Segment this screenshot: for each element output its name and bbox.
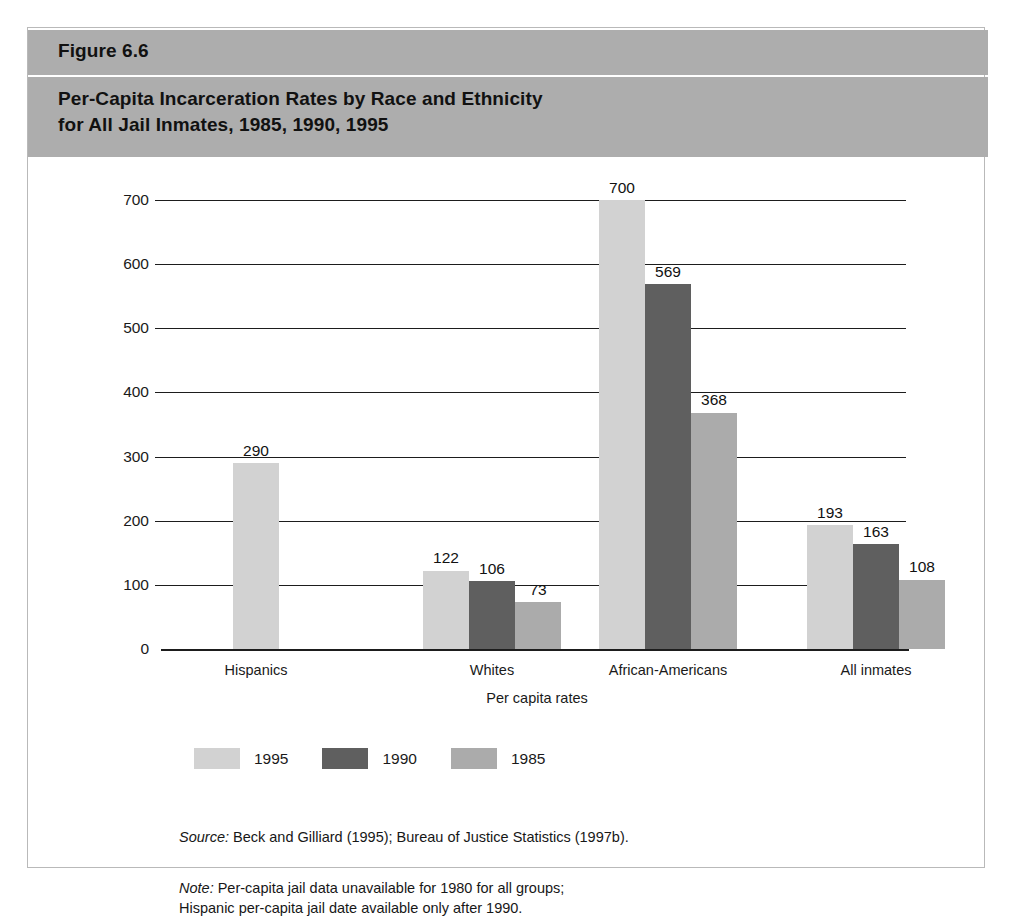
y-tick-label: 100 bbox=[123, 576, 149, 594]
y-tick-mark bbox=[155, 521, 169, 522]
y-tick-mark bbox=[155, 457, 169, 458]
note-label: Note: bbox=[179, 880, 214, 896]
legend-swatch-1985 bbox=[451, 748, 497, 769]
gridline bbox=[169, 328, 906, 329]
source-line: Source: Beck and Gilliard (1995); Bureau… bbox=[179, 807, 939, 847]
y-tick-label: 700 bbox=[123, 191, 149, 209]
legend-swatch-1995 bbox=[194, 748, 240, 769]
legend-label-1985: 1985 bbox=[511, 750, 545, 768]
y-tick-mark bbox=[155, 585, 169, 586]
source-text: Beck and Gilliard (1995); Bureau of Just… bbox=[229, 829, 629, 845]
bar-value-label: 108 bbox=[909, 559, 935, 575]
category-label-all-inmates: All inmates bbox=[841, 662, 912, 678]
category-label-hispanics: Hispanics bbox=[225, 662, 288, 678]
chart-legend: 199519901985 bbox=[194, 748, 579, 769]
bar-value-label: 122 bbox=[433, 550, 459, 566]
bar-whites-1985: 73 bbox=[515, 602, 561, 649]
note-text: Per-capita jail data unavailable for 198… bbox=[179, 880, 564, 916]
bar-african-americans-1995: 700 bbox=[599, 200, 645, 649]
bar-whites-1990: 106 bbox=[469, 581, 515, 649]
gridline bbox=[169, 264, 906, 265]
legend-item-1995: 1995 bbox=[194, 748, 288, 769]
footnotes-block: Source: Beck and Gilliard (1995); Bureau… bbox=[179, 807, 939, 916]
bar-hispanics-1995: 290 bbox=[233, 463, 279, 649]
bar-african-americans-1985: 368 bbox=[691, 413, 737, 649]
legend-label-1995: 1995 bbox=[254, 750, 288, 768]
gridline bbox=[169, 200, 906, 201]
bar-value-label: 106 bbox=[479, 561, 505, 577]
bar-value-label: 193 bbox=[817, 505, 843, 521]
y-tick-label: 600 bbox=[123, 255, 149, 273]
bar-value-label: 73 bbox=[529, 582, 546, 598]
y-tick-label: 300 bbox=[123, 448, 149, 466]
gridline bbox=[169, 521, 906, 522]
legend-label-1990: 1990 bbox=[382, 750, 416, 768]
legend-swatch-1990 bbox=[322, 748, 368, 769]
bar-all-inmates-1990: 163 bbox=[853, 544, 899, 649]
bar-value-label: 163 bbox=[863, 524, 889, 540]
header-band-figure-number: Figure 6.6 bbox=[28, 30, 988, 75]
legend-item-1990: 1990 bbox=[322, 748, 416, 769]
bar-african-americans-1990: 569 bbox=[645, 284, 691, 649]
bar-value-label: 368 bbox=[701, 392, 727, 408]
y-tick-label: 0 bbox=[140, 640, 149, 658]
bar-whites-1995: 122 bbox=[423, 571, 469, 649]
chart-plot-area: 0100200300400500600700 29012210673700569… bbox=[169, 200, 906, 649]
y-tick-label: 500 bbox=[123, 319, 149, 337]
x-axis-title: Per capita rates bbox=[486, 690, 588, 706]
bar-value-label: 700 bbox=[609, 180, 635, 196]
bar-value-label: 569 bbox=[655, 264, 681, 280]
y-tick-mark bbox=[155, 264, 169, 265]
figure-frame: 0100200300400500600700 29012210673700569… bbox=[27, 27, 985, 868]
source-label: Source: bbox=[179, 829, 229, 845]
category-label-african-americans: African-Americans bbox=[609, 662, 727, 678]
legend-item-1985: 1985 bbox=[451, 748, 545, 769]
bar-all-inmates-1995: 193 bbox=[807, 525, 853, 649]
bar-all-inmates-1985: 108 bbox=[899, 580, 945, 649]
gridline bbox=[169, 392, 906, 393]
figure-title-label: Per-Capita Incarceration Rates by Race a… bbox=[58, 86, 543, 138]
y-tick-mark bbox=[155, 200, 169, 201]
header-band-title: Per-Capita Incarceration Rates by Race a… bbox=[28, 77, 988, 157]
gridline bbox=[169, 457, 906, 458]
category-label-whites: Whites bbox=[470, 662, 514, 678]
x-axis-baseline bbox=[161, 649, 909, 651]
figure-number-label: Figure 6.6 bbox=[58, 40, 149, 62]
y-tick-mark bbox=[155, 328, 169, 329]
y-tick-label: 400 bbox=[123, 383, 149, 401]
y-tick-label: 200 bbox=[123, 512, 149, 530]
bar-value-label: 290 bbox=[243, 443, 269, 459]
y-tick-mark bbox=[155, 392, 169, 393]
note-line: Note: Per-capita jail data unavailable f… bbox=[179, 858, 939, 916]
